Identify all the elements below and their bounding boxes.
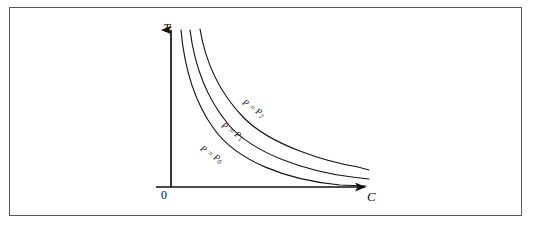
- curve-p2: [200, 29, 369, 170]
- origin-label: 0: [161, 189, 167, 201]
- y-axis-label: T: [163, 21, 170, 34]
- x-axis-label: C: [367, 190, 376, 203]
- curves-group: [181, 29, 369, 186]
- plot-area: [0, 0, 533, 225]
